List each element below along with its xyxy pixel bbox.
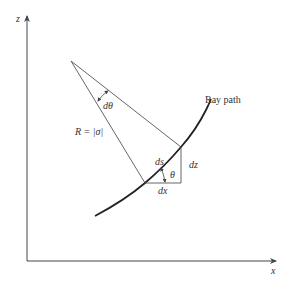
dtheta-label: dθ xyxy=(103,101,113,111)
ds-label: ds xyxy=(155,157,164,167)
ray-geometry-diagram xyxy=(0,0,287,283)
ray-path-label: Ray path xyxy=(205,95,241,105)
theta-label: θ xyxy=(170,170,175,180)
radius-line-lower xyxy=(71,61,145,183)
radius-label: R = |σ| xyxy=(75,127,103,137)
z-axis-label: z xyxy=(16,14,20,24)
ray-path-curve xyxy=(95,99,211,216)
dz-label: dz xyxy=(189,160,198,170)
dx-label: dx xyxy=(158,186,167,196)
x-axis-label: x xyxy=(271,266,275,276)
theta-arrow xyxy=(161,168,165,182)
